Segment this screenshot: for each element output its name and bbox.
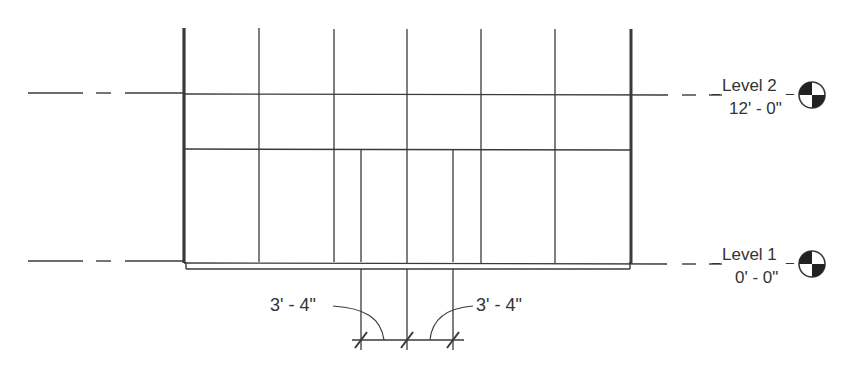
dimension-label-left[interactable]: 3' - 4" [270,296,316,314]
level-2-name[interactable]: Level 2 [722,77,777,94]
level-2-underscore-left: _ [712,80,720,94]
level-1-underscore-right: _ [786,249,794,263]
dimension-label-right[interactable]: 3' - 4" [476,296,522,314]
level-1-name[interactable]: Level 1 [722,246,777,263]
level-2-underscore-right: _ [786,80,794,94]
level-1-line[interactable] [28,261,722,264]
curtain-wall[interactable] [184,28,631,269]
level-2-line[interactable] [28,93,722,95]
level-1-underscore-left: _ [712,249,720,263]
level-1-head-icon[interactable] [799,251,825,277]
elevation-drawing [0,0,850,369]
level-1-elevation[interactable]: 0' - 0" [735,269,778,286]
level-2-elevation[interactable]: 12' - 0" [729,100,782,117]
dimension-string[interactable] [333,306,473,348]
level-2-head-icon[interactable] [799,82,825,108]
